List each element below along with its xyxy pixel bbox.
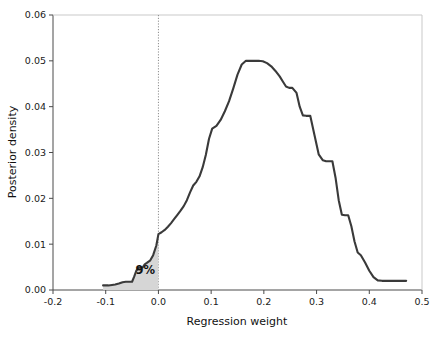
- x-tick-label: 0.0: [151, 296, 166, 307]
- chart-svg: -0.2-0.10.00.10.20.30.40.5 0.000.010.020…: [0, 0, 445, 339]
- y-tick-label: 0.04: [25, 101, 46, 112]
- y-tick-label: 0.06: [25, 9, 46, 20]
- x-axis-ticks: -0.2-0.10.00.10.20.30.40.5: [44, 290, 430, 307]
- x-tick-label: -0.2: [44, 296, 63, 307]
- posterior-density-chart: -0.2-0.10.00.10.20.30.40.5 0.000.010.020…: [0, 0, 445, 339]
- x-tick-label: 0.3: [309, 296, 324, 307]
- y-tick-label: 0.01: [25, 239, 46, 250]
- x-tick-label: 0.2: [256, 296, 271, 307]
- axis-border-faint: [53, 15, 422, 290]
- y-tick-label: 0.00: [25, 284, 46, 295]
- x-tick-label: 0.4: [362, 296, 377, 307]
- y-tick-label: 0.03: [25, 147, 46, 158]
- axis-frame: [53, 15, 422, 290]
- x-axis-title: Regression weight: [187, 315, 288, 328]
- y-tick-label: 0.05: [25, 55, 46, 66]
- x-tick-label: 0.1: [204, 296, 219, 307]
- y-tick-label: 0.02: [25, 193, 46, 204]
- x-tick-label: -0.1: [96, 296, 115, 307]
- shaded-area-percent-label: 9%: [136, 263, 156, 277]
- y-axis-title: Posterior density: [6, 105, 19, 198]
- axis-spines: [53, 15, 422, 290]
- density-line-path: [103, 61, 406, 286]
- y-axis-ticks: 0.000.010.020.030.040.050.06: [25, 9, 53, 295]
- posterior-density-curve: [103, 61, 406, 286]
- x-tick-label: 0.5: [414, 296, 429, 307]
